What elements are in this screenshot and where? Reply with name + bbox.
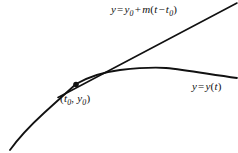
curve-equals: = — [197, 80, 205, 92]
tangent-close-paren: ) — [173, 3, 177, 15]
tangent-plus: + — [134, 3, 142, 15]
tangent-equals: = — [116, 3, 124, 15]
tangency-point-dot — [73, 82, 79, 88]
tangent-minus: − — [157, 3, 165, 15]
tangent-line-figure: y=y0+m(t−t0) y=y(t) (t0, y0) — [0, 0, 238, 153]
tangent-line-equation-label: y=y0+m(t−t0) — [111, 4, 177, 18]
point-comma: , — [71, 92, 74, 104]
curve-close-paren: ) — [218, 80, 222, 92]
point-close-paren: ) — [86, 92, 90, 104]
figure-canvas — [0, 0, 238, 153]
curve-equation-label: y=y(t) — [192, 81, 222, 92]
tangency-point-label: (t0, y0) — [60, 93, 90, 107]
